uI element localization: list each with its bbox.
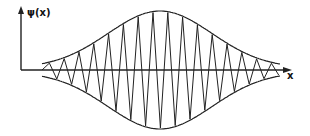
y-axis-label: ψ(x) — [27, 8, 51, 18]
y-axis-arrow-icon — [18, 6, 24, 14]
x-axis-label: x — [287, 71, 293, 81]
wave-packet-diagram — [0, 0, 310, 136]
